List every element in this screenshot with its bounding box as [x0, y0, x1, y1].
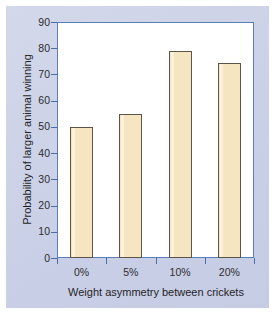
y-axis-tick [51, 127, 57, 128]
y-axis-tick [51, 179, 57, 180]
y-axis-tick [51, 22, 57, 23]
y-axis-tick-label: 90 [26, 17, 50, 28]
x-axis-tick [57, 258, 58, 264]
x-axis-tick [106, 258, 107, 264]
x-axis-tick-label: 10% [157, 267, 203, 278]
x-axis-tick [156, 258, 157, 264]
bar-chart: 0102030405060708090 0%5%10%20% Weight as… [6, 6, 269, 308]
y-axis-tick [51, 232, 57, 233]
x-axis-tick [205, 258, 206, 264]
bar [218, 63, 241, 258]
figure-panel: 0102030405060708090 0%5%10%20% Weight as… [6, 6, 269, 308]
y-axis-tick [51, 153, 57, 154]
bar-highlight [171, 52, 174, 257]
x-axis-tick [254, 258, 255, 264]
bar [169, 51, 192, 258]
y-axis-tick [51, 101, 57, 102]
y-axis-tick [51, 74, 57, 75]
bar-highlight [72, 128, 75, 257]
bar-highlight [220, 64, 223, 257]
x-axis-tick-label: 20% [206, 267, 252, 278]
y-axis-title: Probability of larger animal winning [22, 35, 33, 245]
y-axis-tick-label: 0 [26, 253, 50, 264]
bar [70, 127, 93, 258]
bar [119, 114, 142, 258]
y-axis-tick [51, 48, 57, 49]
bar-highlight [121, 115, 124, 257]
x-axis-tick-label: 5% [108, 267, 154, 278]
x-axis-tick-label: 0% [59, 267, 105, 278]
y-axis-tick [51, 206, 57, 207]
x-axis-title: Weight asymmetry between crickets [46, 287, 266, 298]
